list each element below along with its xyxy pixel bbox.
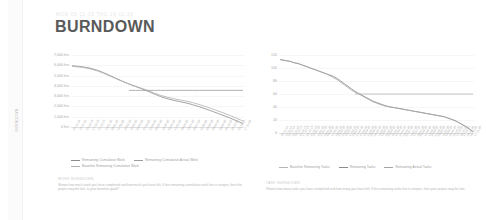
y-tick-label: 6,000 hrs — [54, 63, 69, 67]
y-tick-label: 0 — [275, 131, 277, 135]
y-tick-label: 60 — [273, 92, 277, 96]
work-burndown-plot[interactable]: 7,000 hrs6,000 hrs5,000 hrs4,000 hrs3,00… — [44, 55, 244, 157]
y-axis-labels: 7,000 hrs6,000 hrs5,000 hrs4,000 hrs3,00… — [44, 55, 70, 157]
work-burndown-note: WORK BURNDOWN Shows how much work you ha… — [58, 177, 243, 192]
y-tick-label: 4,000 hrs — [54, 84, 69, 88]
y-tick-label: 2,000 hrs — [54, 104, 69, 108]
legend-label: Remaining Cumulative Work — [82, 158, 125, 162]
y-tick-label: 5,000 hrs — [54, 74, 69, 78]
legend-item[interactable]: Remaining Tasks — [339, 165, 376, 169]
note-title: WORK BURNDOWN — [58, 177, 243, 181]
y-tick-label: 1,000 hrs — [54, 115, 69, 119]
legend-swatch-icon — [71, 166, 80, 167]
note-title: TASK BURNDOWN — [266, 181, 466, 185]
task-burndown-note: TASK BURNDOWN Shows how many tasks you h… — [266, 181, 466, 191]
legend-label: Remaining Cumulative Actual Work — [145, 158, 198, 162]
x-axis-labels: 05-11-1919-11-1903-12-1917-12-1931-12-19… — [71, 129, 244, 153]
work-burndown-legend: Remaining Cumulative WorkRemaining Cumul… — [71, 158, 271, 170]
legend-item[interactable]: Baseline Remaining Cumulative Work — [71, 164, 139, 168]
page-title: BURNDOWN — [55, 19, 355, 35]
y-tick-label: 80 — [273, 79, 277, 83]
y-tick-label: 7,000 hrs — [54, 53, 69, 57]
task-burndown-legend: Baseline Remaining TasksRemaining TasksR… — [279, 165, 486, 171]
report-header: MON 05-11-19 THU 19-11-20 BURNDOWN — [55, 12, 355, 35]
x-axis-labels: 05-11-1912-11-1919-11-1926-11-1903-12-19… — [279, 135, 474, 159]
legend-swatch-icon — [384, 167, 393, 168]
note-body: Shows how much work you have completed a… — [58, 183, 243, 193]
y-tick-label: 40 — [273, 105, 277, 109]
legend-label: Remaining Actual Tasks — [395, 165, 431, 169]
series-line — [280, 60, 473, 132]
chart-work-burndown[interactable]: 7,000 hrs6,000 hrs5,000 hrs4,000 hrs3,00… — [44, 55, 244, 157]
chart-task-burndown[interactable]: 12010080604020005-11-1912-11-1919-11-192… — [252, 55, 474, 159]
charts-container: 7,000 hrs6,000 hrs5,000 hrs4,000 hrs3,00… — [0, 55, 479, 220]
y-axis-labels: 120100806040200 — [252, 55, 278, 159]
y-tick-label: 20 — [273, 118, 277, 122]
legend-item[interactable]: Remaining Cumulative Actual Work — [134, 158, 198, 162]
legend-label: Baseline Remaining Cumulative Work — [82, 164, 139, 168]
legend-item[interactable]: Baseline Remaining Tasks — [279, 165, 330, 169]
y-tick-label: 100 — [271, 66, 277, 70]
task-burndown-plot[interactable]: 12010080604020005-11-1912-11-1919-11-192… — [252, 55, 474, 159]
y-tick-label: 120 — [271, 53, 277, 57]
series-line — [280, 60, 473, 132]
legend-swatch-icon — [71, 160, 80, 161]
y-tick-label: 0 hrs — [61, 125, 69, 129]
series-line — [72, 66, 243, 124]
legend-item[interactable]: Remaining Cumulative Work — [71, 158, 125, 162]
note-body: Shows how many tasks you have completed … — [266, 187, 466, 192]
legend-swatch-icon — [134, 160, 143, 161]
y-tick-label: 3,000 hrs — [54, 94, 69, 98]
legend-label: Remaining Tasks — [350, 165, 376, 169]
report-date-range: MON 05-11-19 THU 19-11-20 — [56, 12, 355, 17]
legend-swatch-icon — [339, 167, 348, 168]
legend-label: Baseline Remaining Tasks — [290, 165, 330, 169]
legend-item[interactable]: Remaining Actual Tasks — [384, 165, 431, 169]
series-lines — [279, 55, 474, 134]
legend-swatch-icon — [279, 167, 288, 168]
series-lines — [71, 55, 244, 128]
